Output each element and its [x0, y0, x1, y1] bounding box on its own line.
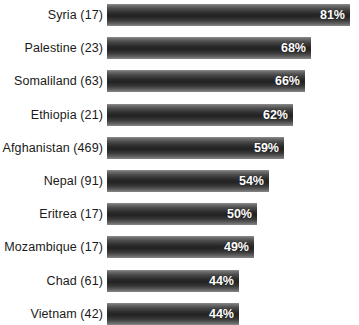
bar: 44% — [107, 303, 239, 325]
bar-track: 66% — [107, 70, 359, 92]
bar-category-label: Syria (17) — [0, 4, 103, 26]
bar-track: 54% — [107, 170, 359, 192]
bar-track: 62% — [107, 104, 359, 126]
bar: 49% — [107, 236, 254, 258]
bar-track: 59% — [107, 137, 359, 159]
bar-row: Eritrea (17)50% — [0, 203, 359, 225]
bar-row: Palestine (23)68% — [0, 37, 359, 59]
bar: 44% — [107, 270, 239, 292]
bar-row: Syria (17)81% — [0, 4, 359, 26]
bar: 81% — [107, 4, 350, 26]
bar-value-label: 59% — [254, 137, 279, 159]
bar-track: 44% — [107, 303, 359, 325]
bar-value-label: 44% — [209, 270, 234, 292]
bar-row: Afghanistan (469)59% — [0, 137, 359, 159]
bar-value-label: 50% — [227, 203, 252, 225]
bar-value-label: 66% — [275, 70, 300, 92]
bar-row: Vietnam (42)44% — [0, 303, 359, 325]
bar-value-label: 81% — [320, 4, 345, 26]
bar-category-label: Palestine (23) — [0, 37, 103, 59]
bar-category-label: Afghanistan (469) — [0, 137, 103, 159]
bar-track: 44% — [107, 270, 359, 292]
bar-track: 50% — [107, 203, 359, 225]
bar: 59% — [107, 137, 284, 159]
bar-row: Somaliland (63)66% — [0, 70, 359, 92]
bar-value-label: 54% — [239, 170, 264, 192]
bar-track: 68% — [107, 37, 359, 59]
bar-row: Ethiopia (21)62% — [0, 104, 359, 126]
bar: 54% — [107, 170, 269, 192]
bar-category-label: Eritrea (17) — [0, 203, 103, 225]
bar: 50% — [107, 203, 257, 225]
bar-category-label: Mozambique (17) — [0, 236, 103, 258]
bar: 62% — [107, 104, 293, 126]
bar-row: Mozambique (17)49% — [0, 236, 359, 258]
bar-category-label: Chad (61) — [0, 270, 103, 292]
bar-category-label: Vietnam (42) — [0, 303, 103, 325]
bar-track: 81% — [107, 4, 359, 26]
bar-category-label: Ethiopia (21) — [0, 104, 103, 126]
bar-value-label: 49% — [224, 236, 249, 258]
bar: 66% — [107, 70, 305, 92]
bar-track: 49% — [107, 236, 359, 258]
bar-category-label: Somaliland (63) — [0, 70, 103, 92]
bar: 68% — [107, 37, 311, 59]
bar-value-label: 68% — [281, 37, 306, 59]
bar-value-label: 44% — [209, 303, 234, 325]
bar-row: Chad (61)44% — [0, 270, 359, 292]
bar-category-label: Nepal (91) — [0, 170, 103, 192]
bar-value-label: 62% — [263, 104, 288, 126]
bar-row: Nepal (91)54% — [0, 170, 359, 192]
